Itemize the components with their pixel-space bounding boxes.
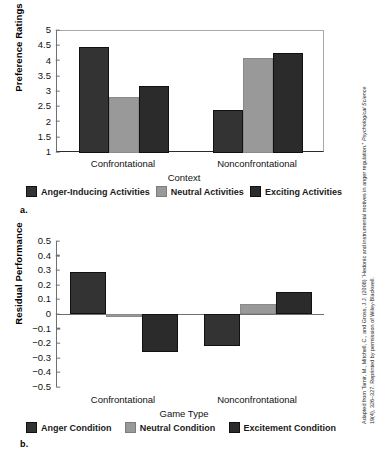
legend-item: Excitement Condition — [229, 422, 337, 433]
y-tick-label: 0.3 — [38, 265, 56, 275]
bar — [139, 86, 169, 153]
y-tick-label: 0.1 — [38, 295, 56, 305]
legend-swatch-icon — [26, 422, 37, 433]
y-tick-label: 2.5 — [38, 102, 56, 112]
bar — [243, 58, 273, 153]
bar-group-a — [57, 31, 323, 151]
legend-label: Excitement Condition — [244, 423, 337, 433]
y-tick-label: 0 — [46, 309, 56, 319]
chart-panel-b: Residual Performance 0.50.40.30.20.10−0.… — [0, 218, 340, 440]
legend-label: Neutral Condition — [140, 423, 216, 433]
y-tick-label: −0.5 — [32, 382, 56, 392]
bar — [213, 110, 243, 153]
y-tick-label: 2 — [46, 117, 56, 127]
y-axis-label-b: Residual Performance — [13, 216, 24, 332]
bar — [109, 97, 139, 153]
legend-label: Neutral Activities — [171, 187, 244, 197]
bar — [70, 272, 106, 314]
y-axis-label-a: Preference Ratings — [13, 0, 24, 103]
y-tick-label: 1 — [46, 147, 56, 157]
x-category-label: Nonconfrontational — [217, 158, 297, 169]
legend-label: Exciting Activities — [265, 187, 342, 197]
y-tick-label: −0.3 — [32, 353, 56, 363]
x-category-label: Nonconfrontational — [217, 394, 297, 405]
legend-item: Exciting Activities — [250, 186, 342, 197]
legend-item: Anger Condition — [26, 422, 112, 433]
legend-label: Anger-Inducing Activities — [41, 187, 150, 197]
bar — [142, 314, 178, 352]
attribution-text-1: Adapted from Tamir, M., Mitchell, C., an… — [361, 143, 367, 424]
y-tick-label: 3.5 — [38, 71, 56, 81]
y-tick-label: 3 — [46, 86, 56, 96]
bar-group-b — [57, 241, 324, 387]
attribution-journal-name: Psychological Science — [361, 86, 367, 141]
legend-swatch-icon — [250, 186, 261, 197]
attribution-line-1: Adapted from Tamir, M., Mitchell, C., an… — [362, 86, 368, 424]
x-axis-label-a: Context — [14, 172, 354, 183]
chart-panel-a: Preference Ratings 54.543.532.521.51 Con… — [0, 0, 340, 218]
attribution-line-2: 19(4), 326–327. Reprinted by permission … — [370, 277, 376, 424]
legend-item: Neutral Activities — [156, 186, 244, 197]
y-tick-label: −0.2 — [32, 338, 56, 348]
bar — [204, 314, 240, 346]
plot-area-b — [56, 241, 324, 387]
x-category-label: Confrontational — [91, 158, 155, 169]
plot-area-a — [56, 30, 324, 152]
legend-swatch-icon — [229, 422, 240, 433]
legend-item: Neutral Condition — [125, 422, 216, 433]
bar — [276, 292, 312, 314]
panel-letter-b: b. — [20, 439, 28, 449]
legend-item: Anger-Inducing Activities — [26, 186, 150, 197]
y-tick-label: 0.2 — [38, 280, 56, 290]
y-tick-label: 5 — [46, 25, 56, 35]
legend-swatch-icon — [125, 422, 136, 433]
y-tick-label: 4.5 — [38, 41, 56, 51]
y-tick-label: 4 — [46, 56, 56, 66]
bar — [79, 47, 109, 153]
legend-swatch-icon — [156, 186, 167, 197]
panel-letter-a: a. — [20, 205, 28, 215]
legend-label: Anger Condition — [41, 423, 112, 433]
bar — [106, 314, 142, 317]
source-attribution: Adapted from Tamir, M., Mitchell, C., an… — [340, 0, 385, 440]
legend-a: Anger-Inducing ActivitiesNeutral Activit… — [26, 186, 336, 197]
y-tick-label: −0.1 — [32, 324, 56, 334]
x-axis-label-b: Game Type — [14, 408, 354, 419]
legend-swatch-icon — [26, 186, 37, 197]
legend-b: Anger ConditionNeutral ConditionExciteme… — [26, 422, 336, 433]
y-tick-label: 1.5 — [38, 132, 56, 142]
y-tick-label: −0.4 — [32, 368, 56, 378]
x-category-label: Confrontational — [91, 394, 155, 405]
y-tick-label: 0.5 — [38, 236, 56, 246]
y-tick-label: 0.4 — [38, 251, 56, 261]
bar — [240, 304, 276, 314]
bar — [273, 53, 303, 153]
